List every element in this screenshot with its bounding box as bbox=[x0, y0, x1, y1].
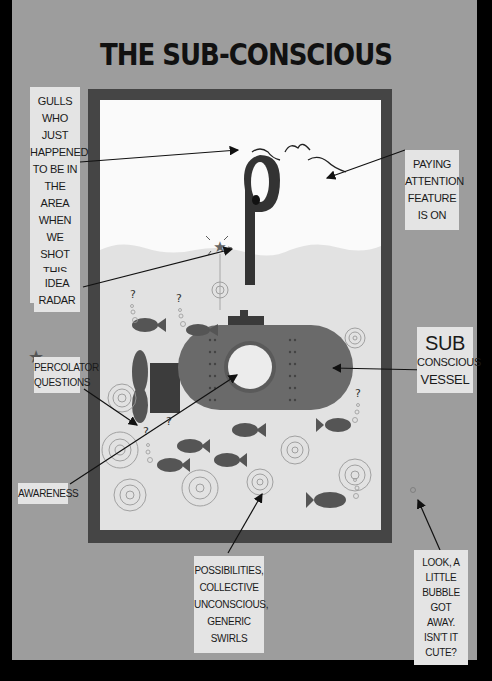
label-sub-conscious-vessel: SUB CONSCIOUS VESSEL bbox=[417, 327, 473, 393]
label-awareness: AWARENESS bbox=[18, 483, 68, 504]
submarine-illustration: ★ bbox=[100, 100, 381, 530]
label-percolator-questions: PERCOLATOR QUESTIONS bbox=[34, 357, 80, 393]
svg-text:?: ? bbox=[143, 425, 149, 438]
label-bubble-got-away: LOOK, A LITTLE BUBBLE GOT AWAY. ISN'T IT… bbox=[414, 550, 468, 665]
propeller-housing-icon bbox=[150, 363, 180, 413]
periscope-eye-icon bbox=[252, 195, 260, 205]
svg-text:?: ? bbox=[176, 292, 182, 305]
label-gulls: GULLS WHO JUST HAPPENED TO BE IN THE ARE… bbox=[30, 87, 80, 303]
label-possibilities: POSSIBILITIES, COLLECTIVE UNCONSCIOUS, G… bbox=[194, 556, 264, 653]
svg-text:?: ? bbox=[166, 415, 172, 428]
porthole-icon bbox=[228, 345, 272, 389]
label-idea-radar: IDEA RADAR bbox=[34, 272, 80, 312]
svg-text:?: ? bbox=[130, 288, 136, 301]
illustration-scene: ★ bbox=[100, 100, 381, 530]
page-title: THE SUB-CONSCIOUS bbox=[0, 38, 492, 73]
svg-text:?: ? bbox=[355, 387, 361, 400]
label-paying-attention: PAYING ATTENTION FEATURE IS ON bbox=[405, 150, 459, 230]
svg-text:★: ★ bbox=[213, 238, 226, 256]
